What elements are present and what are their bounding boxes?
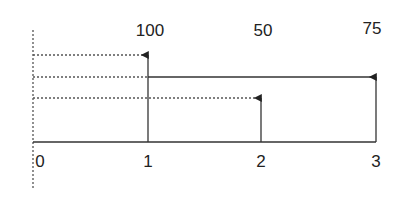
top-label-75: 75 (363, 20, 382, 37)
top-label-50: 50 (254, 22, 273, 39)
axis-label-2: 2 (256, 153, 265, 170)
diagram-canvas: 100 50 75 0 1 2 3 (0, 0, 402, 197)
axis-label-3: 3 (371, 153, 380, 170)
axis-label-1: 1 (143, 153, 152, 170)
diagram-graphic (0, 0, 402, 197)
axis-label-0: 0 (35, 153, 44, 170)
top-label-100: 100 (136, 22, 164, 39)
